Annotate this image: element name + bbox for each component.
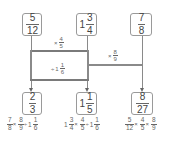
bar-multiply-4-5 xyxy=(30,50,89,52)
output-box-1: 23 xyxy=(22,92,42,115)
denominator: 4 xyxy=(86,24,94,37)
fraction: 512 xyxy=(125,117,134,131)
fraction: 15 xyxy=(86,91,94,116)
fraction: 23 xyxy=(29,91,37,116)
operator: × xyxy=(54,40,58,46)
whole-part: 1 xyxy=(79,98,85,109)
denominator: 6 xyxy=(33,124,39,132)
denominator: 12 xyxy=(125,124,134,132)
connector-right-bottom xyxy=(142,66,143,89)
operator: × xyxy=(13,121,17,127)
bar-multiply-8-9 xyxy=(87,64,143,66)
whole-part: 1 xyxy=(64,121,68,128)
operator: × xyxy=(145,121,149,127)
fraction: 45 xyxy=(59,36,64,49)
input-box-1: 512 xyxy=(22,13,42,36)
numerator: 7 xyxy=(138,12,146,24)
operator: ÷ xyxy=(24,121,27,127)
operator: × xyxy=(108,53,112,59)
output-box-3: 827 xyxy=(131,92,153,115)
fraction: 34 xyxy=(86,12,94,37)
fraction: 89 xyxy=(113,49,118,62)
operator: × xyxy=(74,121,78,127)
denominator: 5 xyxy=(86,103,94,116)
whole-part: 1 xyxy=(55,66,58,72)
output-box-2: 1 15 xyxy=(76,92,97,115)
fraction: 512 xyxy=(26,12,39,37)
denominator: 6 xyxy=(94,124,100,132)
connector-right-top xyxy=(142,36,143,65)
fraction: 89 xyxy=(151,117,157,131)
expression-2: 1 34 × 45 ÷ 1 16 xyxy=(64,117,100,131)
input-box-2: 1 34 xyxy=(76,13,97,36)
denominator: 5 xyxy=(59,42,64,49)
denominator: 12 xyxy=(26,24,39,37)
whole-part: 1 xyxy=(79,19,85,30)
numerator: 8 xyxy=(139,91,147,103)
operator: ÷ xyxy=(51,66,54,72)
bar-divide-1-1-6 xyxy=(30,79,89,81)
fraction: 16 xyxy=(94,117,100,131)
fraction: 16 xyxy=(60,62,65,75)
operation-label-3: × 89 xyxy=(108,49,118,62)
whole-part: 1 xyxy=(28,121,32,128)
denominator: 8 xyxy=(138,24,146,37)
numerator: 3 xyxy=(86,12,94,24)
expression-1: 78 × 89 ÷ 1 16 xyxy=(6,117,38,131)
denominator: 27 xyxy=(136,103,149,116)
rect-left-side xyxy=(30,50,32,81)
expression-3: 512 × 45 × 89 xyxy=(124,117,157,131)
whole-part: 1 xyxy=(90,121,94,128)
operator: ÷ xyxy=(85,121,88,127)
operation-label-1: × 45 xyxy=(54,36,64,49)
denominator: 3 xyxy=(29,103,37,116)
operator: × xyxy=(134,121,138,127)
input-box-3: 78 xyxy=(130,13,152,36)
numerator: 1 xyxy=(86,91,94,103)
denominator: 6 xyxy=(60,68,65,75)
fraction: 78 xyxy=(138,12,146,37)
denominator: 9 xyxy=(151,124,157,132)
operation-label-2: ÷ 1 16 xyxy=(51,62,65,75)
fraction: 16 xyxy=(33,117,39,131)
denominator: 9 xyxy=(113,55,118,62)
numerator: 2 xyxy=(29,91,37,103)
fraction: 827 xyxy=(136,91,149,116)
numerator: 5 xyxy=(29,12,37,24)
